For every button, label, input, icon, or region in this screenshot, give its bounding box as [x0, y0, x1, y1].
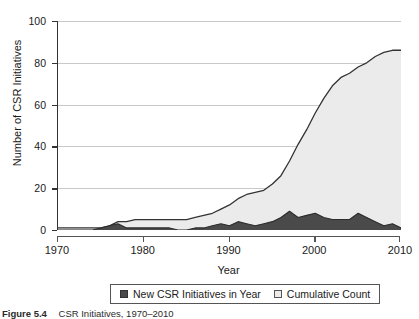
- area-chart-series: [58, 21, 401, 230]
- y-tick-label: 0: [6, 225, 46, 235]
- x-tick-mark: [57, 236, 58, 242]
- figure-number: Figure 5.4: [2, 308, 47, 319]
- x-tick-label: 1990: [206, 244, 252, 256]
- light-square-icon: [274, 290, 282, 298]
- legend-label-cumulative-count: Cumulative Count: [287, 288, 370, 300]
- x-tick-label: 1970: [34, 244, 80, 256]
- y-tick-label: 60: [6, 100, 46, 110]
- y-tick-label: 80: [6, 58, 46, 68]
- x-axis: 19701980199020002010: [57, 236, 400, 266]
- legend-item-cumulative-count[interactable]: Cumulative Count: [274, 288, 370, 300]
- x-tick-label: 1980: [120, 244, 166, 256]
- y-tick-mark: [52, 230, 57, 231]
- cumulative-count-area: [58, 50, 401, 230]
- x-axis-title: Year: [57, 264, 400, 276]
- legend-item-new-initiatives[interactable]: New CSR Initiatives in Year: [120, 288, 261, 300]
- y-tick-label: 40: [6, 141, 46, 151]
- x-tick-mark: [229, 236, 230, 242]
- dark-square-icon: [120, 290, 128, 298]
- x-tick-label: 2000: [291, 244, 337, 256]
- x-tick-mark: [399, 236, 400, 242]
- figure: Number of CSR Initiatives 020406080100 1…: [0, 0, 419, 319]
- x-tick-mark: [314, 236, 315, 242]
- y-tick-label: 100: [6, 16, 46, 26]
- legend-label-new-initiatives: New CSR Initiatives in Year: [133, 288, 261, 300]
- plot-area: [57, 21, 400, 230]
- y-tick-label: 20: [6, 183, 46, 193]
- chart-legend: New CSR Initiatives in Year Cumulative C…: [110, 284, 380, 304]
- x-tick-label: 2010: [377, 244, 419, 256]
- figure-caption: Figure 5.4 CSR Initiatives, 1970–2010: [2, 308, 417, 319]
- figure-caption-text: CSR Initiatives, 1970–2010: [59, 308, 174, 319]
- x-tick-mark: [143, 236, 144, 242]
